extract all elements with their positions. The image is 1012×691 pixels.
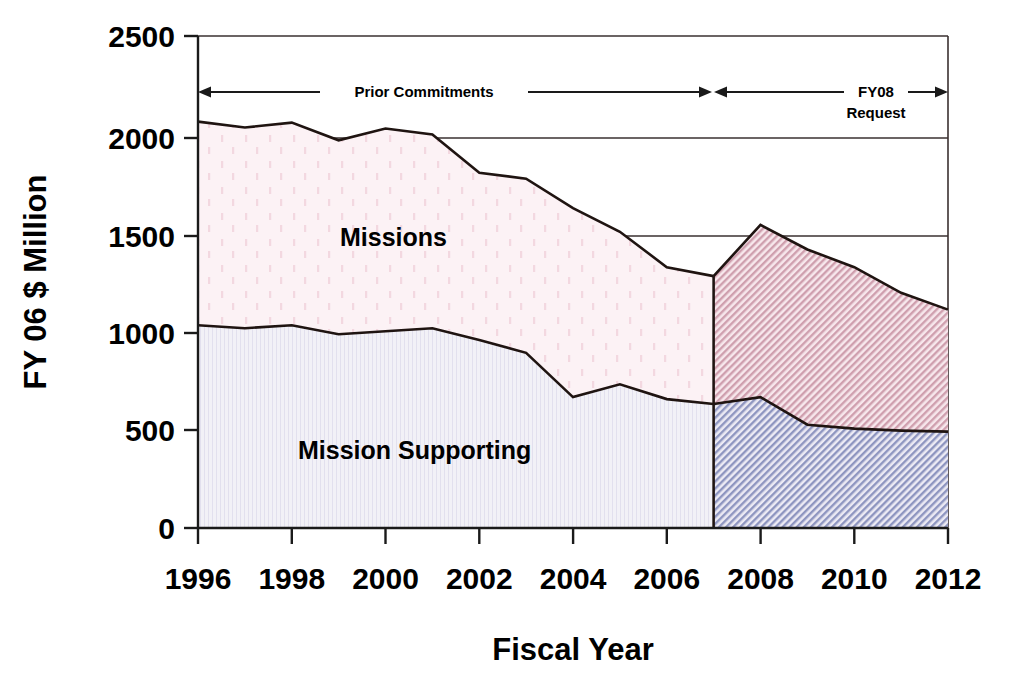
y-tick-label-2000: 2000 xyxy=(108,122,175,155)
fy08-label-line1: FY08 xyxy=(858,83,894,100)
y-tick-label-2500: 2500 xyxy=(108,20,175,53)
y-tick-label-0: 0 xyxy=(158,512,175,545)
series-label-mission-supporting: Mission Supporting xyxy=(298,436,531,464)
chart-figure: 0 500 1000 1500 2000 2500 1996 1998 2000… xyxy=(0,0,1012,691)
y-axis-title: FY 06 $ Million xyxy=(18,175,53,390)
chart-svg: 0 500 1000 1500 2000 2500 1996 1998 2000… xyxy=(0,0,1012,691)
x-tick-labels: 1996 1998 2000 2002 2004 2006 2008 2010 … xyxy=(165,562,982,595)
y-tick-label-1000: 1000 xyxy=(108,317,175,350)
x-axis-title: Fiscal Year xyxy=(492,632,653,667)
x-tick-label-1998: 1998 xyxy=(258,562,325,595)
x-tick-label-2008: 2008 xyxy=(727,562,794,595)
x-tick-label-2000: 2000 xyxy=(352,562,419,595)
x-tick-label-2012: 2012 xyxy=(915,562,982,595)
x-tick-label-2010: 2010 xyxy=(821,562,888,595)
y-tick-label-1500: 1500 xyxy=(108,220,175,253)
x-tick-label-2004: 2004 xyxy=(540,562,607,595)
series-label-missions: Missions xyxy=(340,223,447,251)
prior-commitments-label: Prior Commitments xyxy=(354,83,493,100)
x-tick-label-2002: 2002 xyxy=(446,562,513,595)
x-tick-label-2006: 2006 xyxy=(633,562,700,595)
y-tick-label-500: 500 xyxy=(125,414,175,447)
x-tick-label-1996: 1996 xyxy=(165,562,232,595)
fy08-label-line2: Request xyxy=(846,104,905,121)
